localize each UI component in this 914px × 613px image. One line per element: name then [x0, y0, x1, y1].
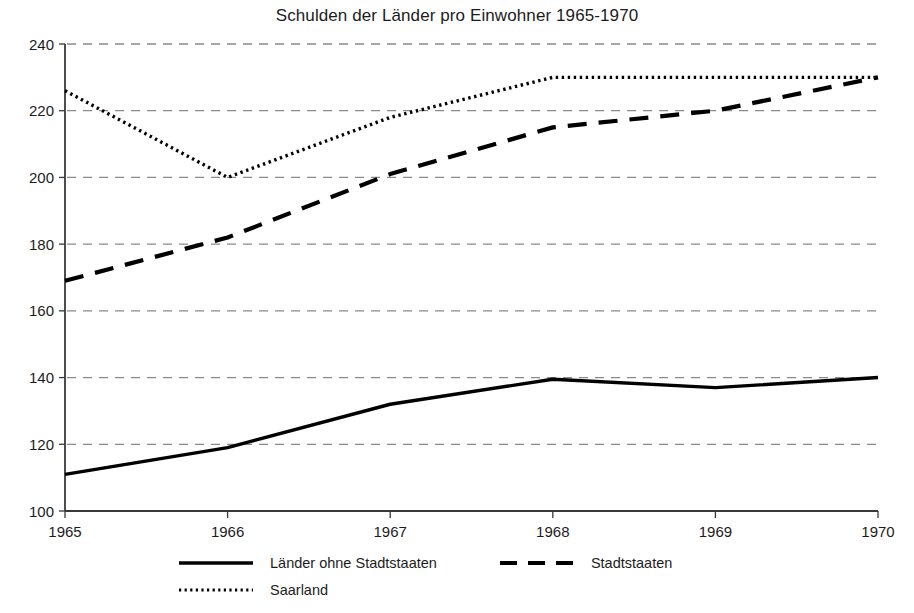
x-axis-tick-label: 1966 [211, 523, 244, 540]
series-line [65, 378, 878, 475]
x-axis-tick-label: 1968 [536, 523, 569, 540]
legend-label-stadtstaaten: Stadtstaaten [591, 556, 672, 571]
x-axis-tick-labels: 196519661967196819691970 [48, 523, 894, 540]
chart-container: Schulden der Länder pro Einwohner 1965-1… [0, 0, 914, 613]
y-axis-tick-label: 160 [29, 302, 54, 319]
legend-item-saarland: Saarland [178, 583, 328, 598]
legend-item-laender: Länder ohne Stadtstaaten [178, 556, 437, 571]
chart-plot-area: 100120140160180200220240 196519661967196… [0, 0, 914, 613]
legend-row-1: Länder ohne Stadtstaaten Stadtstaaten [178, 556, 672, 571]
legend-label-laender: Länder ohne Stadtstaaten [270, 556, 437, 571]
y-axis-tick-label: 140 [29, 369, 54, 386]
legend-label-saarland: Saarland [270, 583, 328, 598]
legend-item-stadtstaaten: Stadtstaaten [499, 556, 672, 571]
y-axis-tick-label: 200 [29, 169, 54, 186]
legend-swatch-dotted-icon [178, 583, 254, 597]
y-axis-tick-label: 120 [29, 436, 54, 453]
series-line [65, 77, 878, 280]
y-axis-tick-label: 100 [29, 503, 54, 520]
axis-ticks [59, 44, 878, 518]
y-axis-tick-labels: 100120140160180200220240 [29, 36, 54, 520]
x-axis-tick-label: 1969 [699, 523, 732, 540]
y-axis-tick-label: 220 [29, 102, 54, 119]
legend-swatch-solid-icon [178, 556, 254, 570]
series-lines [65, 77, 878, 474]
y-axis-tick-label: 180 [29, 236, 54, 253]
y-axis-tick-label: 240 [29, 36, 54, 53]
legend-swatch-dashed-icon [499, 556, 575, 570]
x-axis-tick-label: 1967 [374, 523, 407, 540]
legend-row-2: Saarland [178, 583, 328, 598]
axis-lines [65, 44, 878, 511]
series-line [65, 77, 878, 177]
x-axis-tick-label: 1965 [48, 523, 81, 540]
x-axis-tick-label: 1970 [861, 523, 894, 540]
